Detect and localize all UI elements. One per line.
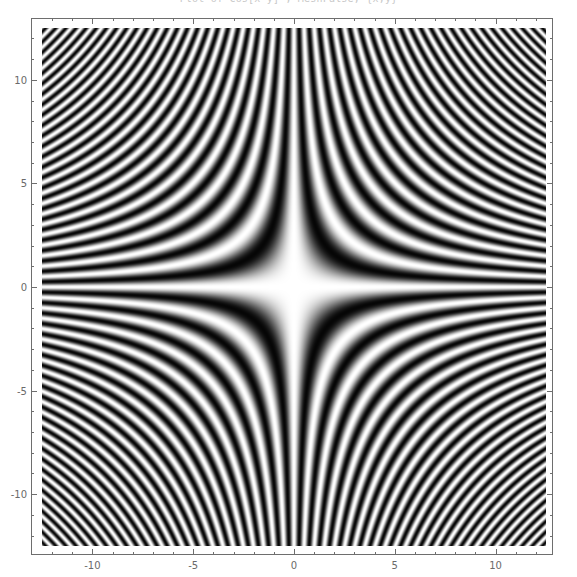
x-minor-tick-top [234, 18, 235, 21]
x-minor-tick [475, 552, 476, 555]
x-minor-tick [435, 552, 436, 555]
y-minor-tick [31, 163, 34, 164]
y-major-tick-right [547, 391, 553, 392]
y-minor-tick-right [550, 328, 553, 329]
y-major-tick [31, 391, 37, 392]
y-minor-tick-right [550, 246, 553, 247]
x-major-tick [395, 549, 396, 555]
x-minor-tick [254, 552, 255, 555]
x-minor-tick [354, 552, 355, 555]
y-minor-tick-right [550, 349, 553, 350]
y-minor-tick [31, 38, 34, 39]
y-major-tick [31, 494, 37, 495]
y-axis-tick-label: 0 [21, 282, 27, 293]
x-major-tick [294, 549, 295, 555]
y-minor-tick [31, 142, 34, 143]
x-minor-tick-top [536, 18, 537, 21]
y-minor-tick-right [550, 121, 553, 122]
y-minor-tick [31, 328, 34, 329]
x-minor-tick [375, 552, 376, 555]
y-minor-tick-right [550, 432, 553, 433]
x-minor-tick-top [274, 18, 275, 21]
density-plot-figure: Plot of Cos[x y] , MeshFalse, {x,y} -10-… [0, 0, 577, 577]
x-minor-tick [415, 552, 416, 555]
y-major-tick-right [547, 183, 553, 184]
y-minor-tick [31, 432, 34, 433]
x-minor-tick [52, 552, 53, 555]
x-minor-tick-top [72, 18, 73, 21]
x-minor-tick-top [254, 18, 255, 21]
y-major-tick [31, 183, 37, 184]
y-minor-tick-right [550, 370, 553, 371]
y-minor-tick [31, 121, 34, 122]
y-minor-tick-right [550, 515, 553, 516]
x-major-tick-top [294, 18, 295, 24]
x-axis-tick-label: -10 [84, 560, 100, 571]
y-minor-tick [31, 453, 34, 454]
x-minor-tick-top [415, 18, 416, 21]
x-major-tick-top [92, 18, 93, 24]
x-major-tick [92, 549, 93, 555]
y-axis-tick-label: -10 [11, 489, 27, 500]
y-minor-tick-right [550, 225, 553, 226]
y-minor-tick-right [550, 453, 553, 454]
y-minor-tick-right [550, 266, 553, 267]
x-axis-tick-label: 10 [489, 560, 502, 571]
y-minor-tick-right [550, 59, 553, 60]
x-minor-tick-top [52, 18, 53, 21]
x-minor-tick [153, 552, 154, 555]
y-axis-tick-label: 5 [21, 178, 27, 189]
x-minor-tick-top [314, 18, 315, 21]
y-minor-tick [31, 536, 34, 537]
x-minor-tick-top [334, 18, 335, 21]
y-minor-tick [31, 308, 34, 309]
y-minor-tick [31, 370, 34, 371]
y-minor-tick-right [550, 142, 553, 143]
x-axis-tick-label: -5 [188, 560, 198, 571]
x-minor-tick [314, 552, 315, 555]
x-minor-tick-top [133, 18, 134, 21]
x-minor-tick-top [516, 18, 517, 21]
x-minor-tick-top [113, 18, 114, 21]
x-minor-tick [234, 552, 235, 555]
y-axis-tick-label: -5 [17, 385, 27, 396]
y-minor-tick [31, 473, 34, 474]
x-minor-tick [133, 552, 134, 555]
x-minor-tick-top [173, 18, 174, 21]
y-minor-tick [31, 59, 34, 60]
x-minor-tick [516, 552, 517, 555]
x-minor-tick [334, 552, 335, 555]
x-minor-tick [72, 552, 73, 555]
x-minor-tick [536, 552, 537, 555]
x-minor-tick-top [213, 18, 214, 21]
y-minor-tick-right [550, 411, 553, 412]
y-minor-tick [31, 349, 34, 350]
y-minor-tick-right [550, 204, 553, 205]
x-axis-tick-label: 5 [392, 560, 398, 571]
x-minor-tick-top [455, 18, 456, 21]
density-heatmap-canvas [42, 28, 546, 546]
y-minor-tick-right [550, 536, 553, 537]
x-minor-tick [455, 552, 456, 555]
y-major-tick-right [547, 494, 553, 495]
x-major-tick-top [193, 18, 194, 24]
y-major-tick [31, 287, 37, 288]
y-minor-tick [31, 515, 34, 516]
y-major-tick-right [547, 80, 553, 81]
plot-title: Plot of Cos[x y] , MeshFalse, {x,y} [0, 0, 577, 4]
x-axis-tick-label: 0 [291, 560, 297, 571]
y-major-tick [31, 80, 37, 81]
y-minor-tick [31, 411, 34, 412]
y-minor-tick [31, 204, 34, 205]
y-minor-tick-right [550, 473, 553, 474]
y-minor-tick-right [550, 101, 553, 102]
density-plot-area [42, 28, 546, 546]
x-minor-tick-top [153, 18, 154, 21]
y-minor-tick-right [550, 308, 553, 309]
y-minor-tick [31, 246, 34, 247]
x-major-tick [496, 549, 497, 555]
x-minor-tick-top [354, 18, 355, 21]
x-minor-tick [213, 552, 214, 555]
x-minor-tick [113, 552, 114, 555]
x-minor-tick-top [375, 18, 376, 21]
